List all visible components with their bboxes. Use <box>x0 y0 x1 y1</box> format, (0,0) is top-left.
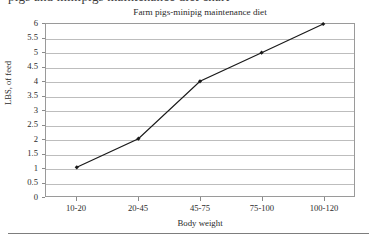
series-polyline <box>77 24 323 167</box>
y-axis-tick-labels: 65.554.543.532.521.510.50 <box>0 0 43 243</box>
x-tick-mark <box>76 197 77 201</box>
plot-area <box>45 23 355 197</box>
y-tick-label: 0 <box>34 193 38 202</box>
y-tick-label: 1 <box>34 164 38 173</box>
data-point-marker <box>321 22 325 26</box>
x-tick-mark <box>324 197 325 201</box>
x-tick-mark <box>200 197 201 201</box>
x-tick-label: 10-20 <box>66 203 86 213</box>
y-tick-label: 4 <box>34 77 38 86</box>
y-tick-label: 5 <box>34 48 38 57</box>
y-tick-label: 2 <box>34 135 38 144</box>
bottom-divider <box>8 233 369 234</box>
y-tick-label: 6 <box>34 19 38 28</box>
x-axis-title: Body weight <box>45 218 355 228</box>
x-tick-label: 100-120 <box>310 203 339 213</box>
x-axis-tick-labels: 10-2020-4545-7575-100100-120 <box>45 203 355 217</box>
y-tick-label: 4.5 <box>27 62 38 71</box>
y-tick-label: 1.5 <box>27 149 38 158</box>
data-point-marker <box>260 51 264 55</box>
data-point-marker <box>75 165 79 169</box>
series-line-chart <box>46 24 354 196</box>
y-tick-label: 0.5 <box>27 178 38 187</box>
y-tick-label: 2.5 <box>27 120 38 129</box>
y-tick-label: 3.5 <box>27 91 38 100</box>
y-tick-label: 3 <box>34 106 38 115</box>
x-tick-label: 20-45 <box>128 203 148 213</box>
x-tick-mark <box>138 197 139 201</box>
figure-chart: Farm pigs-minipig maintenance diet LBS, … <box>0 0 377 243</box>
series-markers <box>75 22 326 169</box>
x-tick-mark <box>262 197 263 201</box>
y-tick-label: 5.5 <box>27 33 38 42</box>
y-tick-mark <box>42 197 45 198</box>
x-tick-label: 45-75 <box>190 203 210 213</box>
x-tick-label: 75-100 <box>250 203 274 213</box>
chart-title: Farm pigs-minipig maintenance diet <box>45 7 355 17</box>
